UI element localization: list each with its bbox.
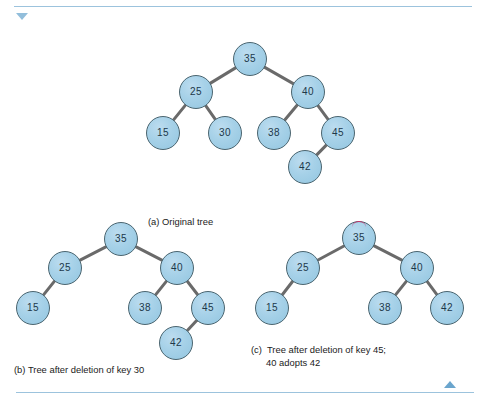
- bottom-divider-rule: [16, 392, 474, 393]
- tree-edge: [210, 68, 236, 84]
- tree-node-label: 40: [302, 87, 314, 97]
- tree-node-label: 35: [244, 54, 256, 64]
- figure-caption-line-2: 40 adopts 42: [251, 356, 386, 369]
- tree-edge: [395, 281, 406, 295]
- tree-edge: [155, 281, 166, 295]
- tree-node-label: 45: [332, 128, 344, 138]
- tree-figure-a: 3525401530384542(a) Original tree: [132, 35, 372, 235]
- tree-node-15: 15: [255, 291, 289, 325]
- tree-node-label: 15: [27, 303, 39, 313]
- tree-node-38: 38: [257, 116, 291, 150]
- tree-edge: [318, 105, 329, 119]
- tree-edge: [374, 246, 403, 261]
- tree-node-25: 25: [286, 251, 320, 285]
- tree-edge: [316, 145, 326, 155]
- tree-node-42: 42: [430, 291, 464, 325]
- tree-node-label: 42: [170, 338, 182, 348]
- tree-node-label: 15: [157, 128, 169, 138]
- tree-node-38: 38: [368, 291, 402, 325]
- tree-node-25: 25: [48, 251, 82, 285]
- tree-node-45: 45: [321, 116, 355, 150]
- tree-node-35: 35: [233, 42, 267, 76]
- tree-edge: [173, 105, 185, 120]
- tree-edge: [43, 281, 54, 295]
- tree-edge: [318, 246, 345, 260]
- tree-node-label: 45: [202, 303, 214, 313]
- tree-node-42: 42: [288, 150, 322, 184]
- tree-node-40: 40: [400, 251, 434, 285]
- tree-node-15: 15: [16, 291, 50, 325]
- tree-node-label: 35: [115, 234, 127, 244]
- tree-node-label: 38: [268, 128, 280, 138]
- tree-node-label: 25: [190, 87, 202, 97]
- tree-node-label: 30: [219, 128, 231, 138]
- triangle-up-icon[interactable]: [444, 381, 456, 388]
- figure-caption-b: (b) Tree after deletion of key 30: [14, 363, 144, 376]
- top-divider-rule: [14, 6, 472, 7]
- tree-figure-c: 352540153842(c) Tree after deletion of k…: [251, 215, 451, 330]
- tree-node-label: 25: [59, 263, 71, 273]
- tree-node-45: 45: [191, 291, 225, 325]
- tree-edge: [187, 281, 198, 295]
- tree-edge: [80, 247, 107, 261]
- tree-edge: [187, 320, 197, 331]
- tree-edge: [264, 67, 293, 84]
- triangle-down-icon[interactable]: [16, 13, 28, 20]
- tree-edge: [427, 281, 437, 295]
- tree-edge: [282, 281, 293, 295]
- tree-node-label: 38: [379, 303, 391, 313]
- tree-node-30: 30: [208, 116, 242, 150]
- tree-node-38: 38: [128, 291, 162, 325]
- figure-caption-line-1: (b) Tree after deletion of key 30: [14, 364, 144, 375]
- tree-edge: [136, 247, 163, 261]
- tree-node-label: 38: [139, 303, 151, 313]
- tree-node-35: 35: [104, 222, 138, 256]
- tree-edge: [206, 105, 216, 119]
- tree-edge: [285, 105, 298, 121]
- tree-node-25: 25: [179, 75, 213, 109]
- tree-figure-b: 35254015384542(b) Tree after deletion of…: [8, 215, 238, 365]
- tree-node-label: 40: [411, 263, 423, 273]
- tree-node-42: 42: [159, 326, 193, 360]
- figure-caption-line-1: (c) Tree after deletion of key 45;: [251, 344, 386, 355]
- tree-node-label: 40: [171, 263, 183, 273]
- tree-node-40: 40: [291, 75, 325, 109]
- tree-node-label: 35: [353, 233, 365, 243]
- figure-page: 3525401530384542(a) Original tree3525401…: [0, 0, 482, 407]
- tree-node-15: 15: [146, 116, 180, 150]
- tree-node-label: 25: [297, 263, 309, 273]
- figure-caption-c: (c) Tree after deletion of key 45;40 ado…: [251, 343, 386, 369]
- tree-node-40: 40: [160, 251, 194, 285]
- tree-node-label: 15: [266, 303, 278, 313]
- tree-node-label: 42: [299, 162, 311, 172]
- tree-node-label: 42: [441, 303, 453, 313]
- tree-node-35: 35: [342, 221, 376, 255]
